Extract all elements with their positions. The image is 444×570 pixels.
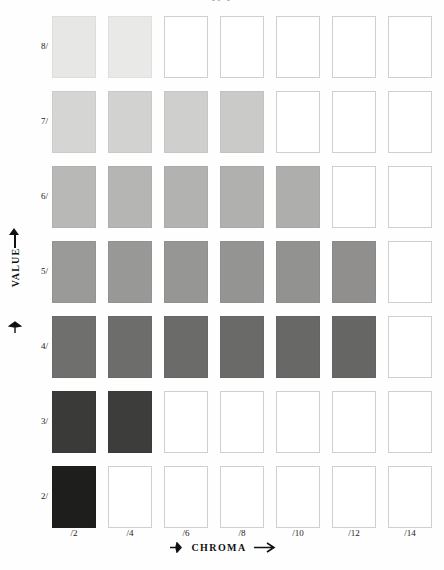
chroma-axis-pennant-icon bbox=[168, 542, 184, 553]
color-chip bbox=[276, 391, 320, 453]
color-chip bbox=[276, 466, 320, 528]
color-chip bbox=[220, 91, 264, 153]
value-axis: VALUE bbox=[2, 228, 28, 338]
color-chip bbox=[164, 166, 208, 228]
page-title: 10 Y bbox=[0, 0, 444, 3]
color-chip bbox=[276, 16, 320, 78]
chroma-tick-label: /10 bbox=[276, 528, 320, 538]
color-chip bbox=[388, 16, 432, 78]
value-tick-label: 3/ bbox=[28, 416, 48, 426]
color-chip bbox=[332, 391, 376, 453]
color-chip bbox=[332, 466, 376, 528]
color-chip bbox=[52, 166, 96, 228]
chroma-tick-label: /12 bbox=[332, 528, 376, 538]
munsell-chart-page: 10 Y VALUE CHROMA 8/7/6 bbox=[0, 0, 444, 570]
chroma-tick-label: /8 bbox=[220, 528, 264, 538]
color-chip bbox=[388, 466, 432, 528]
chroma-tick-label: /6 bbox=[164, 528, 208, 538]
color-chip bbox=[388, 316, 432, 378]
color-chip bbox=[388, 166, 432, 228]
color-chip bbox=[108, 391, 152, 453]
chroma-tick-label: /4 bbox=[108, 528, 152, 538]
color-chip bbox=[332, 316, 376, 378]
value-axis-pennant-icon bbox=[8, 320, 22, 338]
color-chip bbox=[220, 316, 264, 378]
color-chip bbox=[332, 241, 376, 303]
color-chip bbox=[276, 91, 320, 153]
color-chip bbox=[220, 391, 264, 453]
value-axis-label: VALUE bbox=[10, 229, 21, 307]
color-chip bbox=[164, 391, 208, 453]
color-chip bbox=[164, 16, 208, 78]
color-chip bbox=[220, 466, 264, 528]
color-chip bbox=[108, 166, 152, 228]
chroma-tick-label: /2 bbox=[52, 528, 96, 538]
color-chip bbox=[332, 16, 376, 78]
color-chip bbox=[164, 91, 208, 153]
color-chip bbox=[332, 166, 376, 228]
color-chip bbox=[164, 316, 208, 378]
color-chip bbox=[108, 16, 152, 78]
color-chip bbox=[276, 316, 320, 378]
value-tick-label: 2/ bbox=[28, 491, 48, 501]
right-arrow-icon bbox=[254, 542, 276, 553]
value-tick-label: 6/ bbox=[28, 191, 48, 201]
chroma-tick-label: /14 bbox=[388, 528, 432, 538]
color-chip bbox=[108, 241, 152, 303]
color-chip bbox=[52, 91, 96, 153]
color-chip bbox=[108, 466, 152, 528]
color-chip bbox=[52, 466, 96, 528]
chroma-axis: CHROMA bbox=[0, 542, 444, 555]
chroma-axis-label: CHROMA bbox=[191, 542, 246, 553]
color-chip bbox=[220, 241, 264, 303]
color-chip bbox=[220, 16, 264, 78]
color-chip bbox=[108, 316, 152, 378]
value-tick-label: 5/ bbox=[28, 266, 48, 276]
color-chip bbox=[52, 241, 96, 303]
value-tick-label: 4/ bbox=[28, 341, 48, 351]
color-chip bbox=[52, 316, 96, 378]
color-chip bbox=[52, 16, 96, 78]
color-chip bbox=[332, 91, 376, 153]
color-chip bbox=[220, 166, 264, 228]
color-chip bbox=[388, 91, 432, 153]
color-chip bbox=[164, 466, 208, 528]
color-chip bbox=[388, 391, 432, 453]
color-chip bbox=[164, 241, 208, 303]
color-chip bbox=[52, 391, 96, 453]
color-chip bbox=[276, 166, 320, 228]
value-tick-label: 7/ bbox=[28, 116, 48, 126]
color-chip bbox=[276, 241, 320, 303]
value-tick-label: 8/ bbox=[28, 41, 48, 51]
color-chip bbox=[388, 241, 432, 303]
color-chip bbox=[108, 91, 152, 153]
